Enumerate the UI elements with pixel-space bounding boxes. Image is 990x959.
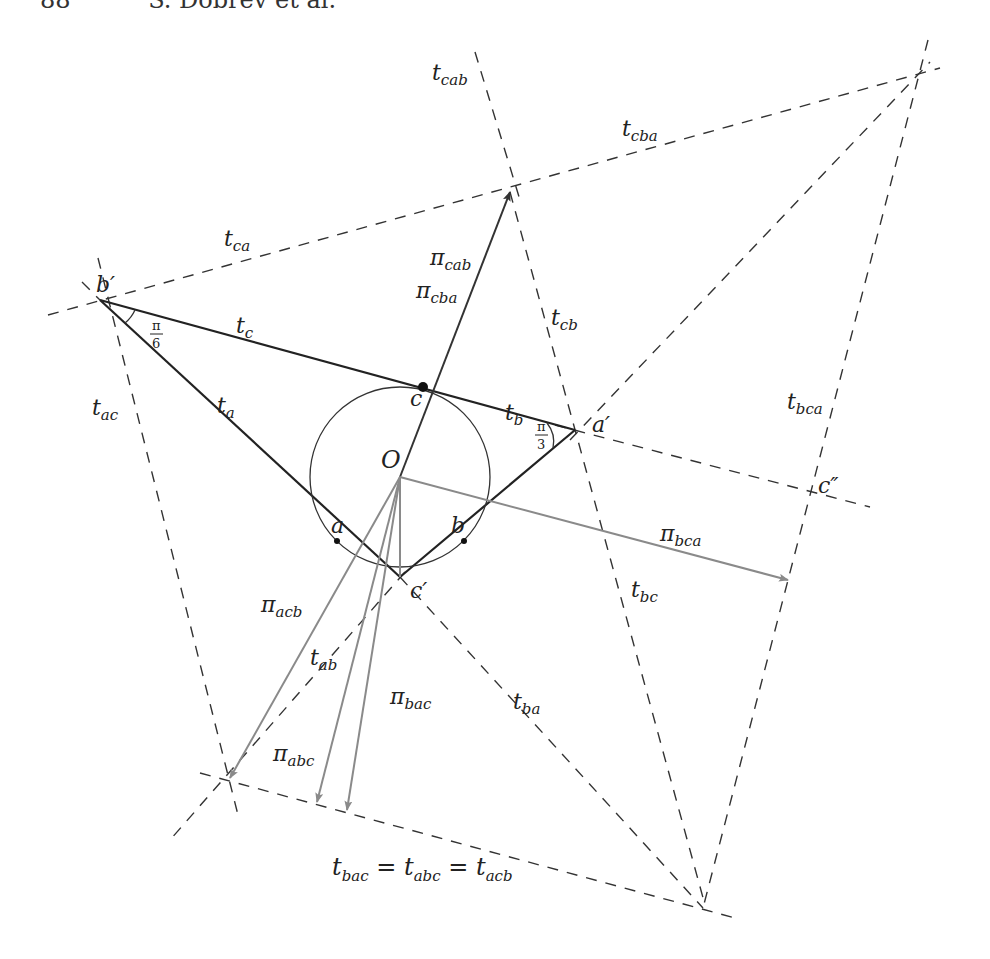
label-point-a: a [331, 513, 344, 538]
arrow-pi-acb [230, 477, 400, 778]
label-pi-abc: πabc [272, 741, 315, 770]
label-t-cb: tcb [551, 305, 578, 334]
angle-pi-6: π 6 [150, 318, 163, 351]
label-pi-bac: πbac [389, 684, 432, 713]
equation-t-bac-abc-acb: tbac = tabc = tacb [332, 853, 513, 887]
geometry-figure: b′ a′ c′ c″ O a b c π 6 π 3 tc ta tb tca… [0, 0, 990, 959]
label-pi-cba: πcba [415, 278, 457, 307]
side-t-b [400, 430, 575, 577]
label-center-o: O [381, 446, 401, 474]
label-pi-acb: πacb [260, 592, 302, 621]
arrow-pi-abc [317, 477, 400, 802]
angle-pi-6-numerator: π [152, 318, 161, 333]
line-t-bac [200, 773, 735, 918]
dashed-lines [48, 40, 940, 918]
label-t-ab: tab [310, 645, 337, 674]
point-a [334, 538, 340, 544]
label-t-cba: tcba [622, 116, 658, 145]
angle-pi-3: π 3 [535, 419, 548, 452]
line-t-cab [475, 52, 520, 200]
angle-pi-3-denominator: 3 [537, 437, 545, 452]
label-c-double-prime: c″ [818, 473, 839, 498]
arrow-pi-bac [347, 477, 400, 810]
arrow-pi-cab [400, 192, 510, 477]
label-t-bc: tbc [631, 577, 658, 606]
label-t-b: tb [505, 400, 523, 429]
label-pi-cab: πcab [429, 245, 471, 274]
label-point-c: c [410, 386, 422, 411]
line-t-bca [703, 40, 928, 908]
angle-pi-3-numerator: π [537, 419, 546, 434]
label-b-prime: b′ [96, 272, 115, 297]
label-point-b: b [451, 513, 465, 538]
label-t-c: tc [236, 313, 254, 342]
label-a-prime: a′ [592, 412, 610, 437]
label-t-ca: tca [224, 226, 250, 255]
angle-pi-6-denominator: 6 [152, 336, 160, 351]
label-t-ba: tba [513, 689, 540, 718]
line-t-ac [98, 258, 238, 815]
label-c-prime: c′ [410, 578, 427, 603]
label-t-bca: tbca [787, 389, 823, 418]
angle-arc-b-prime [125, 310, 135, 323]
label-pi-bca: πbca [659, 521, 701, 550]
label-t-ac: tac [92, 395, 119, 424]
point-b [461, 538, 467, 544]
label-t-a: ta [217, 393, 235, 422]
label-t-cab: tcab [432, 60, 468, 89]
